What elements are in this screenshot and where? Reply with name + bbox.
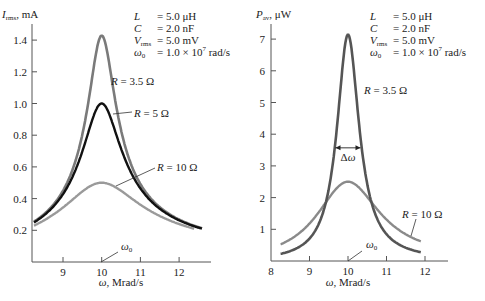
- left-label-r5: R = 5 Ω: [133, 107, 169, 119]
- y-tick-label: 1.0: [13, 98, 27, 110]
- svg-text:ω0: ω0: [134, 46, 146, 60]
- power-curve-R10: [281, 182, 421, 245]
- y-tick-label: 0.6: [13, 161, 27, 173]
- left-leader-r5: [113, 112, 132, 114]
- svg-text:ω0: ω0: [370, 46, 382, 60]
- left-label-r10: R = 10 Ω: [156, 161, 197, 173]
- y-tick-label: 1.4: [13, 34, 27, 46]
- left-curves: [34, 36, 202, 229]
- left-leader-r10: [116, 168, 155, 186]
- right-omega0-leader: [348, 251, 362, 261]
- svg-text:= 5.0 μH: = 5.0 μH: [393, 10, 432, 22]
- left-label-r35: R = 3.5 Ω: [110, 75, 154, 87]
- right-x-ticks: 89101112: [268, 256, 430, 277]
- x-tick-label: 12: [420, 265, 431, 277]
- right-curves: [281, 35, 421, 254]
- right-label-r10: R = 10 Ω: [401, 208, 442, 220]
- svg-text:C: C: [370, 22, 378, 34]
- y-tick-label: 0.8: [13, 129, 27, 141]
- right-label-r35: R = 3.5 Ω: [363, 84, 407, 96]
- left-x-ticks: 9101112: [60, 257, 184, 278]
- y-tick-label: 1.2: [13, 66, 27, 78]
- left-params: L = 5.0 μH C = 2.0 nF Vrms = 5.0 mV ω0 =…: [133, 10, 230, 60]
- svg-text:L: L: [133, 10, 140, 22]
- svg-text:= 5.0 mV: = 5.0 mV: [157, 34, 199, 46]
- x-tick-label: 9: [60, 266, 66, 278]
- right-y-ticks: 1234567: [260, 33, 277, 235]
- y-tick-label: 7: [260, 33, 266, 45]
- x-tick-label: 9: [307, 265, 313, 277]
- left-omega0-leader: [101, 252, 118, 262]
- x-tick-label: 12: [174, 266, 185, 278]
- svg-text:= 2.0 nF: = 2.0 nF: [157, 22, 194, 34]
- y-tick-label: 4: [260, 128, 266, 140]
- y-tick-label: 0.4: [13, 193, 27, 205]
- delta-omega-marker: Δω: [336, 145, 361, 163]
- y-tick-label: 3: [260, 160, 266, 172]
- right-chart: 1234567 89101112 Pav, μW R = 3.5 Ω R = 1…: [255, 8, 466, 288]
- y-tick-label: 1: [260, 223, 266, 235]
- power-curve-R35: [281, 35, 421, 254]
- resonance-figure: 0.20.40.60.81.01.21.4 9101112 Irms, mA R…: [0, 0, 485, 301]
- svg-text:= 1.0 × 107 rad/s: = 1.0 × 107 rad/s: [157, 45, 230, 58]
- right-y-label: Pav, μW: [255, 8, 292, 22]
- left-x-label: ω, Mrad/s: [99, 276, 143, 288]
- y-tick-label: 2: [260, 192, 266, 204]
- svg-text:L: L: [369, 10, 376, 22]
- y-tick-label: 0.2: [13, 224, 27, 236]
- left-y-ticks: 0.20.40.60.81.01.21.4: [13, 34, 37, 236]
- svg-text:= 5.0 mV: = 5.0 mV: [393, 34, 435, 46]
- curve-R10: [34, 183, 194, 229]
- right-params: L = 5.0 μH C = 2.0 nF Vrms = 5.0 mV ω0 =…: [369, 10, 466, 60]
- y-tick-label: 6: [260, 65, 266, 77]
- delta-omega-label: Δω: [341, 151, 356, 163]
- right-leader-r10: [411, 219, 416, 236]
- svg-text:= 5.0 μH: = 5.0 μH: [157, 10, 196, 22]
- left-chart: 0.20.40.60.81.01.21.4 9101112 Irms, mA R…: [1, 8, 230, 288]
- y-tick-label: 5: [260, 97, 266, 109]
- left-omega0-label: ω0: [121, 240, 133, 254]
- right-x-label: ω, Mrad/s: [326, 276, 370, 288]
- svg-text:= 2.0 nF: = 2.0 nF: [393, 22, 430, 34]
- x-tick-label: 8: [268, 265, 274, 277]
- svg-text:C: C: [134, 22, 142, 34]
- svg-text:= 1.0 × 107 rad/s: = 1.0 × 107 rad/s: [393, 45, 466, 58]
- x-tick-label: 11: [381, 265, 392, 277]
- right-omega0-label: ω0: [366, 238, 378, 252]
- left-y-label: Irms, mA: [1, 8, 38, 22]
